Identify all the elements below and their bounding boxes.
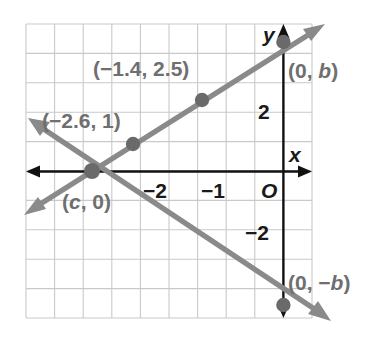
- point-c-0: [84, 163, 100, 179]
- point-0-negb: [276, 298, 290, 312]
- point-label-c-0-open: (: [62, 190, 69, 213]
- point-label-0-b-close: ): [331, 59, 338, 82]
- point-label-0-negb: (0, −b): [288, 272, 350, 293]
- point-0-b: [276, 35, 290, 49]
- y-axis-label: y: [263, 24, 275, 45]
- y-tick-label-2: 2: [258, 101, 270, 122]
- x-axis-label: x: [289, 144, 301, 165]
- point-label-neg14-25: (−1.4, 2.5): [93, 58, 189, 79]
- coordinate-plane-figure: (−1.4, 2.5) (−2.6, 1) (c, 0) (0, b) (0, …: [0, 0, 383, 337]
- x-axis-arrow-left: [26, 166, 40, 178]
- point-neg26-1: [126, 137, 140, 151]
- x-axis-arrow-right: [298, 166, 312, 178]
- point-label-neg26-1: (−2.6, 1): [42, 110, 121, 131]
- point-neg14-25: [195, 93, 209, 107]
- falling-line: [36, 124, 322, 314]
- y-tick-label-neg2: −2: [245, 222, 269, 243]
- point-label-0-b: (0, b): [288, 60, 338, 81]
- point-label-0-b-var: b: [318, 59, 331, 82]
- point-label-0-negb-close: ): [343, 271, 350, 294]
- origin-label: O: [261, 180, 277, 201]
- point-label-0-negb-var: b: [331, 271, 344, 294]
- point-label-0-negb-open: (0, −: [288, 271, 331, 294]
- falling-line-series: [28, 118, 331, 321]
- point-label-0-b-open: (0,: [288, 59, 318, 82]
- point-label-c-0-rest: , 0): [81, 190, 111, 213]
- x-tick-label-neg2: −2: [143, 180, 167, 201]
- point-label-c-0: (c, 0): [62, 191, 111, 212]
- point-label-c-0-var: c: [69, 190, 81, 213]
- x-tick-label-neg1: −1: [201, 180, 225, 201]
